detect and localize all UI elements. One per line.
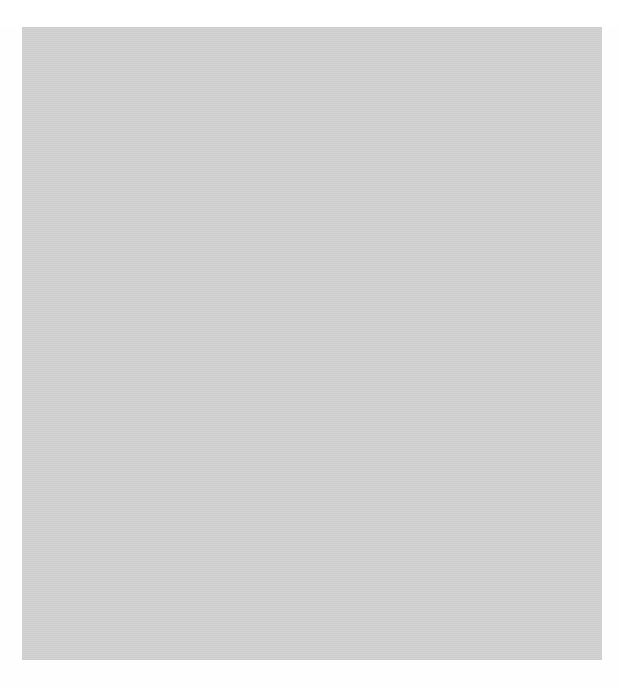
plot-area bbox=[126, 30, 580, 462]
data-lines bbox=[126, 30, 580, 462]
figure-panel bbox=[22, 27, 602, 660]
cropped-header-strip bbox=[0, 0, 619, 26]
scanned-page bbox=[0, 0, 619, 687]
x-axis-tick-labels bbox=[126, 464, 580, 526]
y-axis-tick-labels bbox=[62, 30, 124, 462]
